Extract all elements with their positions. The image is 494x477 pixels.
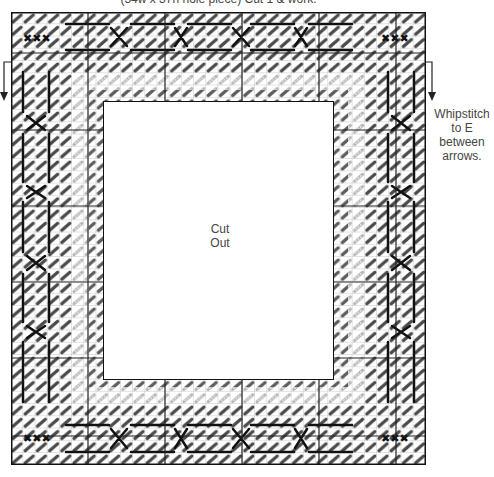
piece-caption: (34w x 37h hole piece) Cut 1 & work.: [0, 0, 437, 6]
whipstitch-note: Whipstitch to E between arrows.: [430, 107, 494, 163]
cut-out-label: Cut Out: [190, 222, 250, 250]
svg-text:✖✖✖: ✖✖✖: [23, 32, 51, 45]
svg-text:✖✖✖: ✖✖✖: [23, 432, 51, 445]
right-down-arrow-icon: [425, 60, 439, 102]
left-down-arrow-icon: [0, 60, 14, 102]
svg-text:✖✖✖: ✖✖✖: [381, 432, 409, 445]
svg-text:✖✖✖: ✖✖✖: [381, 32, 409, 45]
